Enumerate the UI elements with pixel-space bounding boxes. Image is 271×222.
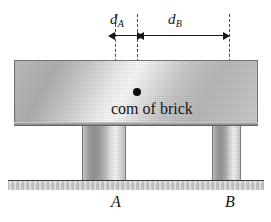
dimension-subscript-db: B	[176, 18, 182, 29]
column-a-texture	[83, 126, 125, 180]
arrowhead-left-db	[137, 32, 144, 40]
arrowhead-right-db	[223, 32, 230, 40]
support-column-b	[212, 126, 241, 180]
dimension-arrow-db	[137, 31, 230, 40]
dimension-line-db	[143, 35, 224, 36]
dimension-symbol-da: d	[110, 11, 118, 27]
support-column-a	[82, 126, 126, 180]
ground-texture	[8, 181, 264, 190]
arrowhead-left-da	[108, 32, 115, 40]
ground-surface	[8, 180, 264, 190]
physics-figure-com-of-brick: dA dB com of brick A B	[0, 0, 271, 222]
dimension-line-da	[115, 35, 137, 36]
com-caption: com of brick	[111, 101, 193, 117]
support-label-a: A	[111, 194, 121, 210]
dimension-subscript-da: A	[118, 18, 124, 29]
dimension-symbol-db: d	[168, 11, 176, 27]
center-of-mass-dot	[133, 88, 141, 96]
support-label-b: B	[225, 194, 235, 210]
column-b-texture	[213, 126, 240, 180]
dimension-label-db: dB	[168, 12, 182, 29]
dimension-label-da: dA	[110, 12, 124, 29]
